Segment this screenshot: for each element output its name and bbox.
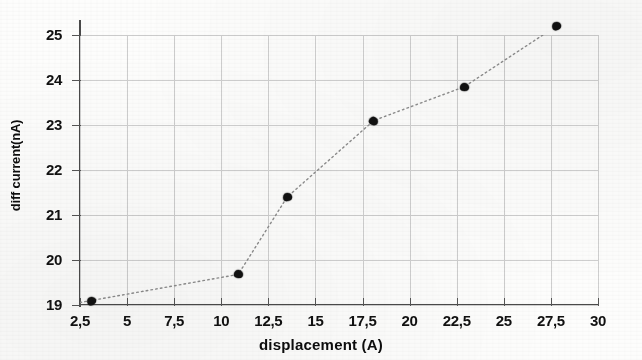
y-axis-tick-label: 20 <box>34 251 62 268</box>
gridline-vertical <box>598 35 599 305</box>
x-axis-tick <box>127 298 128 306</box>
y-axis-tick-label: 25 <box>34 26 62 43</box>
x-axis-tick <box>551 298 552 306</box>
y-axis-tick <box>72 170 81 171</box>
data-point-marker <box>282 192 293 202</box>
x-axis-tick <box>410 298 411 306</box>
y-axis-tick-label: 21 <box>34 206 62 223</box>
x-axis-tick-label: 7,5 <box>164 312 184 329</box>
y-axis-tick <box>72 35 81 36</box>
data-point-marker <box>551 20 563 31</box>
gridline-horizontal <box>80 215 598 216</box>
y-axis-tick-label: 24 <box>34 71 62 88</box>
x-axis-tick-label: 27,5 <box>537 312 565 329</box>
x-axis-tick-label: 2,5 <box>70 312 90 329</box>
x-axis-title: displacement (A) <box>0 336 642 353</box>
gridline-horizontal <box>80 125 598 126</box>
data-point-marker <box>460 83 469 91</box>
x-axis-tick-label: 22,5 <box>443 312 471 329</box>
x-axis-tick-label: 17,5 <box>349 312 377 329</box>
y-axis-tick <box>72 125 81 126</box>
x-axis-tick <box>598 298 599 306</box>
gridline-horizontal <box>80 260 598 261</box>
x-axis-tick <box>221 298 222 306</box>
y-axis-tick-label: 19 <box>34 296 62 313</box>
y-axis-tick <box>72 215 81 216</box>
gridline-horizontal <box>80 80 598 81</box>
y-axis-tick <box>72 80 81 81</box>
y-axis-title: diff current(nA) <box>9 119 24 210</box>
chart-figure: diff current(nA) 192021222324252,557,510… <box>0 0 642 360</box>
x-axis-tick-label: 20 <box>402 312 418 329</box>
x-axis-tick-label: 12,5 <box>254 312 282 329</box>
x-axis-tick <box>80 298 81 306</box>
x-axis-tick-label: 30 <box>590 312 606 329</box>
y-axis-tick-label: 22 <box>34 161 62 178</box>
x-axis-tick <box>457 298 458 306</box>
x-axis-tick-label: 10 <box>213 312 229 329</box>
gridline-horizontal <box>80 305 598 306</box>
x-axis-tick <box>504 298 505 306</box>
x-axis-tick <box>363 298 364 306</box>
y-axis-tick <box>72 260 81 261</box>
gridline-horizontal <box>80 170 598 171</box>
y-axis-tick-label: 23 <box>34 116 62 133</box>
x-axis-tick <box>268 298 269 306</box>
x-axis-tick-label: 5 <box>123 312 131 329</box>
plot-area <box>80 35 598 305</box>
gridline-horizontal <box>80 35 598 36</box>
x-axis-tick-label: 25 <box>496 312 512 329</box>
data-point-marker <box>233 270 243 279</box>
x-axis-tick <box>315 298 316 306</box>
x-axis-tick-label: 15 <box>307 312 323 329</box>
x-axis-tick <box>174 298 175 306</box>
y-axis-title-container: diff current(nA) <box>0 0 36 330</box>
